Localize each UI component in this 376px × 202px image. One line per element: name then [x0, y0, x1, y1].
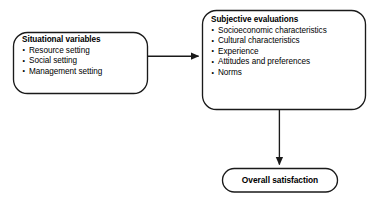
node-heading-subjective-evaluations: Subjective evaluations: [211, 15, 363, 26]
list-item: Experience: [211, 47, 363, 58]
list-item: Resource setting: [22, 46, 146, 57]
node-situational-variables[interactable]: Situational variables Resource setting S…: [22, 35, 146, 77]
node-overall-satisfaction[interactable]: Overall satisfaction: [222, 168, 338, 192]
list-item: Management setting: [22, 67, 146, 78]
bullet-list-situational-variables: Resource setting Social setting Manageme…: [22, 46, 146, 78]
node-subjective-evaluations[interactable]: Subjective evaluations Socioeconomic cha…: [211, 15, 363, 78]
list-item: Social setting: [22, 56, 146, 67]
node-heading-overall-satisfaction: Overall satisfaction: [242, 175, 318, 186]
list-item: Cultural characteristics: [211, 36, 363, 47]
bullet-list-subjective-evaluations: Socioeconomic characteristics Cultural c…: [211, 26, 363, 79]
node-heading-situational-variables: Situational variables: [22, 35, 146, 46]
list-item: Socioeconomic characteristics: [211, 26, 363, 37]
list-item: Attitudes and preferences: [211, 57, 363, 68]
list-item: Norms: [211, 68, 363, 79]
